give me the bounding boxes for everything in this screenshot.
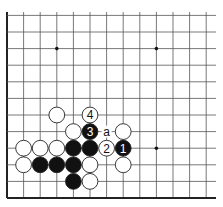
white-stone: [66, 124, 82, 140]
white-stone: 2: [99, 140, 115, 156]
white-stone: [49, 140, 65, 156]
white-stone: [82, 174, 98, 190]
black-stone: 3: [82, 124, 98, 140]
white-stone: [16, 140, 32, 156]
move-number: 3: [87, 125, 94, 139]
white-stone: [16, 157, 32, 173]
black-stone: [66, 140, 82, 156]
move-number: 4: [87, 108, 94, 122]
move-number: 1: [120, 142, 127, 156]
black-stone: [66, 174, 82, 190]
white-stone: [82, 157, 98, 173]
black-stone: 1: [115, 140, 131, 156]
star-point: [155, 47, 159, 51]
star-point: [155, 146, 159, 150]
black-stone: [82, 140, 98, 156]
markers-layer: a: [102, 125, 112, 139]
move-number: 2: [103, 142, 110, 156]
white-stone: [32, 140, 48, 156]
point-label: a: [103, 125, 110, 139]
white-stone: 4: [82, 107, 98, 123]
black-stone: [32, 157, 48, 173]
go-board-diagram: 4321 a: [0, 0, 223, 207]
white-stone: [115, 157, 131, 173]
star-point: [55, 47, 59, 51]
black-stone: [49, 157, 65, 173]
white-stone: [115, 124, 131, 140]
white-stone: [49, 107, 65, 123]
black-stone: [66, 157, 82, 173]
